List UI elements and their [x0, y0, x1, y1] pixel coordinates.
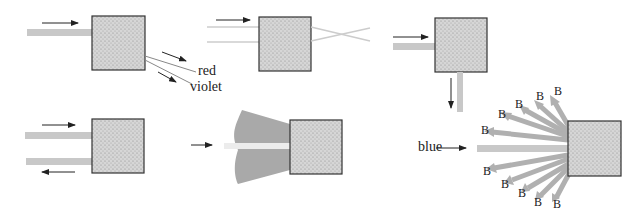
incident-beam: [393, 43, 435, 50]
label-b: B: [483, 165, 491, 177]
arrow-icon: [162, 52, 186, 61]
incident-beam: [27, 29, 93, 36]
medium-box: [92, 16, 145, 70]
label-b: B: [481, 124, 489, 136]
scattered-beam: [457, 72, 463, 112]
label-b: B: [536, 90, 544, 102]
medium-box: [435, 18, 487, 72]
label-blue: blue: [418, 140, 442, 154]
label-b: B: [553, 198, 561, 210]
incident-beam: [224, 143, 290, 149]
panel-dispersion: [27, 16, 196, 84]
panel-right-angle-scatter: [393, 18, 487, 112]
label-b: B: [498, 108, 506, 120]
panel-blue-scattering: [436, 95, 621, 202]
panel-transmission-crossing: [207, 17, 370, 71]
medium-box: [92, 119, 144, 173]
reflected-beam: [26, 158, 92, 165]
label-b: B: [534, 196, 542, 208]
medium-box: [290, 120, 342, 174]
incident-beam: [477, 145, 568, 152]
label-red: red: [198, 64, 216, 78]
label-b: B: [515, 98, 523, 110]
label-violet: violet: [190, 80, 222, 94]
panel-forward-diffuse-scatter: [191, 110, 342, 184]
medium-box: [568, 121, 621, 176]
label-b: B: [501, 178, 509, 190]
label-b: B: [518, 187, 526, 199]
medium-box: [259, 17, 311, 71]
panel-reflection: [25, 119, 144, 173]
scattering-diagram: [0, 0, 643, 224]
incident-beam: [25, 132, 92, 139]
arrow-icon: [158, 72, 176, 82]
label-b: B: [554, 85, 562, 97]
